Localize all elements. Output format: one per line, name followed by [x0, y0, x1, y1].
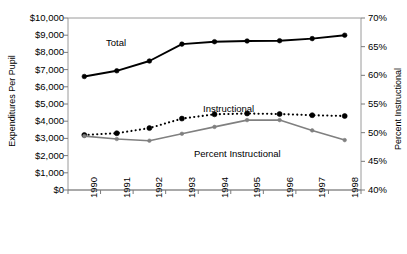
series-line-percent-instructional: [84, 120, 344, 141]
data-point-total-1993: [180, 42, 185, 47]
data-point-percent-instructional-1998: [343, 138, 347, 142]
data-point-instructional-1996: [277, 112, 282, 117]
data-point-percent-instructional-1997: [310, 129, 314, 133]
plot-area: [0, 0, 407, 254]
data-point-instructional-1998: [342, 114, 347, 119]
data-point-percent-instructional-1993: [180, 132, 184, 136]
data-point-total-1992: [147, 59, 152, 64]
data-point-percent-instructional-1995: [245, 118, 249, 122]
data-point-total-1996: [277, 38, 282, 43]
data-point-percent-instructional-1991: [115, 137, 119, 141]
data-point-instructional-1997: [310, 113, 315, 118]
data-point-total-1994: [212, 39, 217, 44]
data-point-total-1995: [245, 39, 250, 44]
data-point-percent-instructional-1994: [213, 125, 217, 129]
data-point-total-1991: [115, 69, 120, 74]
data-point-total-1998: [342, 33, 347, 38]
data-point-percent-instructional-1992: [148, 139, 152, 143]
data-point-instructional-1993: [179, 116, 184, 121]
data-point-instructional-1995: [245, 111, 250, 116]
data-point-percent-instructional-1996: [278, 118, 282, 122]
data-point-total-1990: [82, 74, 87, 79]
data-point-instructional-1994: [212, 112, 217, 117]
data-point-percent-instructional-1990: [83, 134, 87, 138]
data-point-instructional-1992: [147, 126, 152, 131]
expenditures-per-pupil-chart: Expenditures Per Pupil Percent Instructi…: [0, 0, 407, 254]
data-point-total-1997: [310, 36, 315, 41]
data-point-instructional-1991: [114, 131, 119, 136]
